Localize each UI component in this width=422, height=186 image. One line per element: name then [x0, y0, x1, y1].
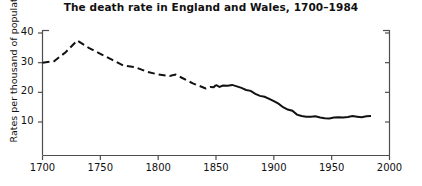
y-tick-label: 10 [12, 115, 34, 126]
y-tick-label: 20 [12, 85, 34, 96]
y-tick-label: 30 [12, 56, 34, 67]
x-tick-label: 1850 [194, 162, 238, 173]
x-tick-label: 1800 [136, 162, 180, 173]
data-series-group [43, 40, 371, 118]
y-axis-ticks [38, 33, 390, 122]
data-line-registered [216, 85, 371, 119]
axis-lines [43, 30, 391, 156]
x-axis-ticks [43, 156, 390, 161]
y-tick-label: 40 [12, 26, 34, 37]
plot-area [0, 0, 422, 186]
data-line-estimated [43, 40, 217, 88]
x-tick-label: 1750 [78, 162, 122, 173]
x-tick-label: 2000 [368, 162, 412, 173]
chart-figure: The death rate in England and Wales, 170… [0, 0, 422, 186]
x-tick-label: 1900 [252, 162, 296, 173]
x-tick-label: 1700 [21, 162, 65, 173]
x-tick-label: 1950 [310, 162, 354, 173]
